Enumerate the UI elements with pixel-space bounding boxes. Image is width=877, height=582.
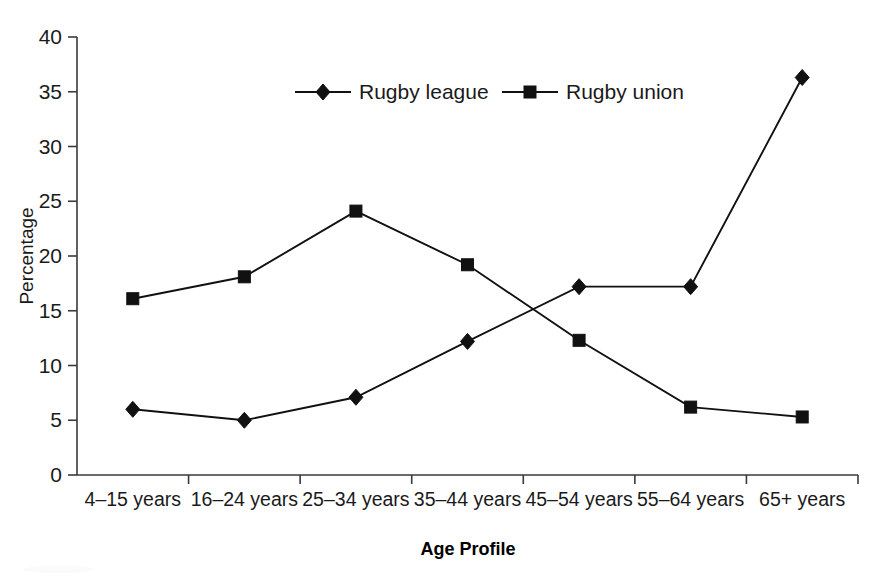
data-point-diamond-icon — [795, 70, 809, 86]
data-point-diamond-icon — [237, 412, 251, 428]
y-tick-label: 30 — [39, 135, 62, 158]
data-series-group — [126, 70, 809, 429]
data-point-square-icon — [573, 334, 585, 346]
legend-label: Rugby union — [566, 80, 684, 103]
series-line-rugby-union — [133, 211, 802, 417]
data-point-diamond-icon — [349, 389, 363, 405]
data-point-diamond-icon — [572, 279, 586, 295]
legend-square-icon — [524, 86, 536, 98]
x-tick-label: 16–24 years — [191, 488, 299, 510]
y-tick-label: 40 — [39, 25, 62, 48]
data-point-diamond-icon — [461, 333, 475, 349]
x-tick-label: 55–64 years — [637, 488, 745, 510]
y-tick-label: 35 — [39, 80, 62, 103]
data-point-square-icon — [685, 401, 697, 413]
x-tick-label: 65+ years — [759, 488, 845, 510]
y-tick-label: 15 — [39, 299, 62, 322]
x-tick-label: 35–44 years — [414, 488, 522, 510]
series-line-rugby-league — [133, 78, 802, 421]
x-tick-label: 25–34 years — [302, 488, 410, 510]
y-tick-label: 25 — [39, 189, 62, 212]
data-point-square-icon — [796, 411, 808, 423]
scan-artifact — [22, 566, 94, 573]
y-tick-label: 5 — [50, 408, 62, 431]
y-tick-label: 10 — [39, 354, 62, 377]
chart-figure: 0510152025303540 4–15 years16–24 years25… — [0, 0, 877, 582]
y-tick-label: 20 — [39, 244, 62, 267]
chart-legend: Rugby leagueRugby union — [295, 80, 684, 103]
data-point-diamond-icon — [126, 401, 140, 417]
data-point-square-icon — [127, 293, 139, 305]
x-tick-label: 45–54 years — [525, 488, 633, 510]
data-point-square-icon — [350, 205, 362, 217]
line-chart: 0510152025303540 4–15 years16–24 years25… — [0, 0, 877, 582]
data-point-square-icon — [462, 259, 474, 271]
x-axis-ticks: 4–15 years16–24 years25–34 years35–44 ye… — [85, 475, 858, 510]
legend-label: Rugby league — [359, 80, 489, 103]
data-point-square-icon — [238, 271, 250, 283]
y-axis-ticks: 0510152025303540 — [39, 25, 77, 486]
x-tick-label: 4–15 years — [85, 488, 182, 510]
data-point-diamond-icon — [684, 279, 698, 295]
x-axis-title: Age Profile — [420, 539, 515, 559]
legend-diamond-icon — [316, 84, 330, 100]
y-axis-title: Percentage — [16, 207, 37, 304]
y-tick-label: 0 — [50, 463, 62, 486]
